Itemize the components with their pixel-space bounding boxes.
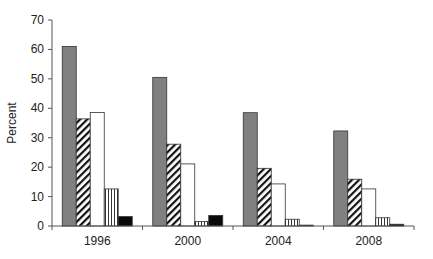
y-axis-label: Percent xyxy=(5,102,19,144)
bar-solid-black-1996 xyxy=(118,217,132,226)
y-tick-label: 40 xyxy=(31,101,45,115)
y-tick-label: 50 xyxy=(31,72,45,86)
y-axis-title: Percent xyxy=(5,102,19,144)
bar-diagonal-hatch-2008 xyxy=(348,179,362,226)
x-tick-label: 2000 xyxy=(174,234,201,248)
bar-white-2004 xyxy=(271,184,285,226)
bar-solid-gray-2004 xyxy=(243,113,257,226)
bar-vertical-lines-1996 xyxy=(104,189,118,226)
y-tick-label: 20 xyxy=(31,160,45,174)
bar-white-2000 xyxy=(181,164,195,226)
bar-chart: Percent 010203040506070 1996200020042008 xyxy=(0,0,433,259)
bar-diagonal-hatch-2004 xyxy=(257,168,271,226)
x-axis: 1996200020042008 xyxy=(52,226,414,248)
bar-solid-gray-1996 xyxy=(62,46,76,226)
x-tick-label: 1996 xyxy=(84,234,111,248)
bar-white-2008 xyxy=(362,189,376,226)
y-tick-label: 0 xyxy=(37,219,44,233)
x-tick-label: 2008 xyxy=(355,234,382,248)
bar-solid-gray-2000 xyxy=(153,77,167,226)
bar-vertical-lines-2008 xyxy=(376,218,390,226)
bar-solid-black-2000 xyxy=(209,215,223,226)
y-tick-label: 60 xyxy=(31,42,45,56)
bars xyxy=(62,46,404,226)
bar-white-1996 xyxy=(90,112,104,226)
bar-vertical-lines-2000 xyxy=(195,222,209,226)
y-tick-label: 70 xyxy=(31,13,45,27)
y-axis: 010203040506070 xyxy=(31,13,52,233)
bar-vertical-lines-2004 xyxy=(285,219,299,226)
y-tick-label: 30 xyxy=(31,131,45,145)
bar-solid-gray-2008 xyxy=(334,131,348,226)
x-tick-label: 2004 xyxy=(265,234,292,248)
y-tick-label: 10 xyxy=(31,190,45,204)
bar-diagonal-hatch-1996 xyxy=(76,119,90,226)
bar-diagonal-hatch-2000 xyxy=(167,144,181,226)
